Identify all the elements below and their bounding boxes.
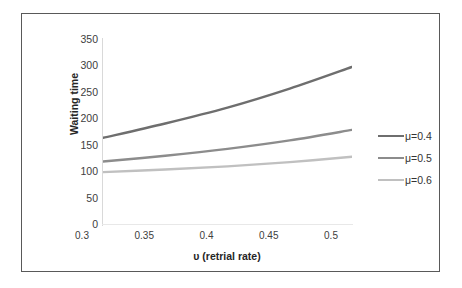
x-axis-title: υ (retrial rate)	[152, 250, 302, 262]
legend-item[interactable]: μ=0.5	[378, 147, 452, 169]
x-axis-tick-label: 0.35	[122, 230, 166, 241]
series-line-0	[103, 67, 352, 138]
y-axis-tick-label: 0	[52, 219, 98, 230]
legend-item[interactable]: μ=0.6	[378, 169, 452, 191]
y-axis-tick-label: 50	[52, 193, 98, 204]
legend-label: μ=0.4	[405, 130, 432, 142]
y-axis-tick-label: 350	[52, 34, 98, 45]
y-axis-tick-label: 100	[52, 166, 98, 177]
legend-swatch-icon	[378, 179, 404, 182]
plot-area	[103, 40, 352, 225]
chart-frame: 350300250200150100500 Waiting time 0.30.…	[21, 13, 440, 272]
series-line-1	[103, 130, 352, 162]
x-axis-tick-label: 0.45	[247, 230, 291, 241]
x-axis-tick-label: 0.4	[185, 230, 229, 241]
chart-legend: μ=0.4μ=0.5μ=0.6	[378, 125, 452, 191]
legend-item[interactable]: μ=0.4	[378, 125, 452, 147]
x-axis-tick-label: 0.5	[309, 230, 353, 241]
y-axis-title: Waiting time	[68, 49, 80, 159]
chart-figure: 350300250200150100500 Waiting time 0.30.…	[0, 0, 462, 288]
legend-swatch-icon	[378, 135, 404, 138]
x-axis-tick-label: 0.3	[60, 230, 104, 241]
legend-swatch-icon	[378, 157, 404, 160]
legend-label: μ=0.5	[405, 152, 432, 164]
legend-label: μ=0.6	[405, 174, 432, 186]
